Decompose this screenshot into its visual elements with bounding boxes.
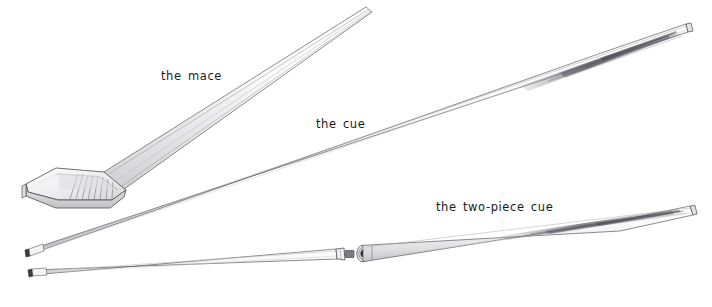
cue-tip [25, 244, 44, 257]
joint-collar-male [336, 248, 345, 260]
mace-illustration [22, 7, 372, 208]
mace-shaft [96, 7, 372, 192]
label-the-mace: the mace [161, 69, 222, 83]
label-the-two-piece-cue: the two-piece cue [436, 200, 553, 214]
joint-screw-pin [345, 251, 354, 258]
cue-butt-splice [520, 31, 682, 91]
label-the-cue: the cue [316, 117, 365, 131]
billiard-implements-diagram: the mace the cue the two-piece cue [0, 0, 712, 307]
two-piece-cue-tip [28, 268, 47, 277]
two-piece-cue-illustration [28, 206, 697, 278]
diagram-illustration [0, 0, 712, 307]
two-piece-cue-shaft-piece [28, 248, 354, 277]
